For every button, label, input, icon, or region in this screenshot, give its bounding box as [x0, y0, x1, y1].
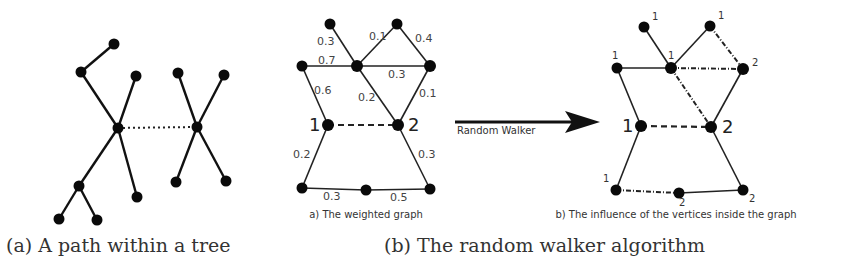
seed-label-2: 2 [408, 114, 419, 135]
weight-label: 0.4 [415, 32, 433, 45]
vertex-label: 1 [603, 173, 609, 184]
seed-label-2: 2 [722, 116, 733, 137]
caption-b: (b) The random walker algorithm [384, 234, 705, 256]
weight-label: 0.1 [419, 87, 437, 100]
weight-label: 0.7 [318, 54, 336, 67]
weight-label: 0.3 [418, 148, 436, 161]
weight-label: 0.3 [388, 68, 406, 81]
figure: 0.3 0.1 0.4 0.7 0.3 0.6 0.2 0.1 0.2 0.3 … [0, 0, 855, 264]
weight-label: 0.2 [293, 148, 311, 161]
weight-label: 0.3 [317, 35, 335, 48]
vertex-label: 2 [679, 197, 685, 208]
weight-label: 0.6 [314, 84, 332, 97]
tree-diagram [54, 39, 232, 226]
subcaption-influence: b) The influence of the vertices inside … [555, 209, 796, 220]
vertex-label: 2 [749, 193, 755, 204]
weight-label: 0.3 [323, 190, 341, 203]
vertex-label: 1 [668, 50, 674, 61]
seed-label-1: 1 [622, 115, 633, 136]
vertex-label: 1 [612, 50, 618, 61]
vertex-label: 1 [718, 10, 724, 21]
vertex-label: 2 [752, 57, 758, 68]
influence-graph: 1 1 1 1 2 1 2 2 1 2 b) The influence of … [555, 10, 796, 220]
weighted-graph: 0.3 0.1 0.4 0.7 0.3 0.6 0.2 0.1 0.2 0.3 … [293, 19, 437, 221]
tree-path-dotted [118, 127, 197, 128]
arrow-label: Random Walker [457, 125, 536, 136]
vertex-label: 1 [652, 11, 658, 22]
seed-label-1: 1 [309, 114, 320, 135]
subcaption-weighted-graph: a) The weighted graph [309, 209, 423, 220]
random-walker-arrow: Random Walker [455, 111, 600, 136]
caption-a: (a) A path within a tree [6, 234, 231, 256]
weight-label: 0.2 [358, 91, 376, 104]
weight-label: 0.1 [369, 30, 387, 43]
weight-label: 0.5 [390, 191, 408, 204]
